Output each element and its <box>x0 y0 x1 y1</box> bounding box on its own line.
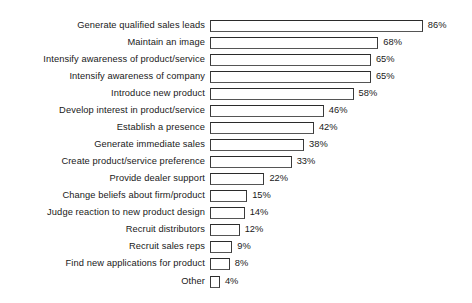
value-label: 65% <box>376 70 395 83</box>
bar-row: Find new applications for product 8% <box>0 257 472 270</box>
category-label: Other <box>0 275 210 288</box>
bar-rect <box>210 88 354 100</box>
value-label: 12% <box>245 223 264 236</box>
bar-row: Judge reaction to new product design 14% <box>0 206 472 219</box>
bar-rect <box>210 54 371 66</box>
value-label: 42% <box>319 121 338 134</box>
bar-track: 12% <box>210 223 263 236</box>
bar-row: Recruit distributors 12% <box>0 223 472 236</box>
bar-rect <box>210 173 264 185</box>
category-label: Judge reaction to new product design <box>0 206 210 219</box>
bar-track: 22% <box>210 172 288 185</box>
value-label: 9% <box>237 240 250 253</box>
bar-row: Develop interest in product/service 46% <box>0 104 472 117</box>
value-label: 33% <box>297 155 316 168</box>
category-label: Recruit distributors <box>0 223 210 236</box>
category-label: Generate immediate sales <box>0 138 210 151</box>
bar-rect <box>210 139 304 151</box>
bar-rect <box>210 224 240 236</box>
value-label: 46% <box>329 104 348 117</box>
bar-row: Maintain an image 68% <box>0 36 472 49</box>
value-label: 58% <box>359 87 378 100</box>
bar-track: 65% <box>210 70 394 83</box>
bar-rect <box>210 190 247 202</box>
bar-row: Other 4% <box>0 275 472 288</box>
value-label: 65% <box>376 53 395 66</box>
bar-track: 65% <box>210 53 394 66</box>
bar-row: Generate qualified sales leads 86% <box>0 19 472 32</box>
bar-rect <box>210 105 324 117</box>
category-label: Generate qualified sales leads <box>0 19 210 32</box>
bar-track: 58% <box>210 87 377 100</box>
bar-row: Change beliefs about firm/product 15% <box>0 189 472 202</box>
bar-row: Provide dealer support 22% <box>0 172 472 185</box>
bar-track: 38% <box>210 138 328 151</box>
bar-track: 46% <box>210 104 347 117</box>
bar-row: Introduce new product 58% <box>0 87 472 100</box>
bar-row: Generate immediate sales 38% <box>0 138 472 151</box>
horizontal-bar-chart: Generate qualified sales leads 86% Maint… <box>0 0 472 303</box>
category-label: Find new applications for product <box>0 257 210 270</box>
bar-rect <box>210 156 292 168</box>
category-label: Establish a presence <box>0 121 210 134</box>
category-label: Provide dealer support <box>0 172 210 185</box>
category-label: Intensify awareness of company <box>0 70 210 83</box>
value-label: 15% <box>252 189 271 202</box>
value-label: 68% <box>383 36 402 49</box>
bar-rect <box>210 207 245 219</box>
bar-rect <box>210 241 232 253</box>
bar-rect <box>210 37 378 49</box>
bar-row: Create product/service preference 33% <box>0 155 472 168</box>
bar-track: 86% <box>210 19 446 32</box>
value-label: 14% <box>250 206 269 219</box>
category-label: Create product/service preference <box>0 155 210 168</box>
value-label: 86% <box>428 19 447 32</box>
bar-track: 33% <box>210 155 315 168</box>
bar-track: 14% <box>210 206 268 219</box>
value-label: 4% <box>225 275 238 288</box>
value-label: 8% <box>235 257 248 270</box>
bar-track: 8% <box>210 257 248 270</box>
bar-track: 15% <box>210 189 271 202</box>
category-label: Introduce new product <box>0 87 210 100</box>
bar-track: 9% <box>210 240 251 253</box>
bar-row: Establish a presence 42% <box>0 121 472 134</box>
bar-rect <box>210 71 371 83</box>
category-label: Intensify awareness of product/service <box>0 53 210 66</box>
bar-track: 68% <box>210 36 402 49</box>
category-label: Recruit sales reps <box>0 240 210 253</box>
category-label: Maintain an image <box>0 36 210 49</box>
value-label: 22% <box>269 172 288 185</box>
bar-rect <box>210 122 314 134</box>
value-label: 38% <box>309 138 328 151</box>
bar-row: Intensify awareness of company 65% <box>0 70 472 83</box>
category-label: Change beliefs about firm/product <box>0 189 210 202</box>
bar-rect <box>210 276 220 288</box>
bar-rect <box>210 20 423 32</box>
category-label: Develop interest in product/service <box>0 104 210 117</box>
bar-row: Recruit sales reps 9% <box>0 240 472 253</box>
bar-rect <box>210 258 230 270</box>
bar-track: 42% <box>210 121 338 134</box>
bar-track: 4% <box>210 275 238 288</box>
bar-row: Intensify awareness of product/service 6… <box>0 53 472 66</box>
